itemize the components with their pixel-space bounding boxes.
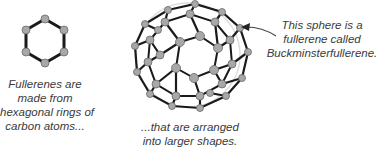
annotation-caption: This sphere is a fullerene called Buckmi…: [266, 18, 378, 60]
caption-line: made from: [0, 91, 90, 105]
caption-line: carbon atoms...: [0, 119, 90, 133]
caption-line: hexagonal rings of: [0, 105, 90, 119]
caption-line: Buckminsterfullerene.: [266, 46, 378, 60]
caption-line: into larger shapes.: [130, 134, 250, 148]
caption-line: fullerene called: [266, 32, 378, 46]
sphere-caption: ...that are arranged into larger shapes.: [130, 120, 250, 148]
caption-line: ...that are arranged: [130, 120, 250, 134]
hexagon-caption: Fullerenes are made from hexagonal rings…: [0, 77, 90, 133]
caption-line: This sphere is a: [266, 18, 378, 32]
hexagon-ring: [22, 15, 68, 67]
buckyball: [132, 1, 252, 112]
caption-line: Fullerenes are: [0, 77, 90, 91]
